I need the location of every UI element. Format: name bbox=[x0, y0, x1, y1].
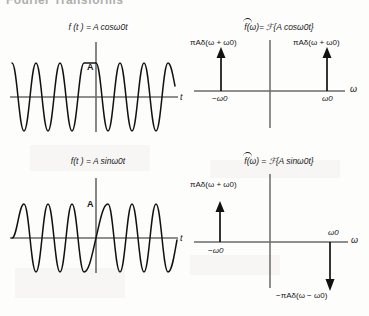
sine-time-plot bbox=[8, 170, 188, 274]
hat-accent-icon bbox=[243, 18, 253, 23]
cosine-time-plot bbox=[8, 36, 188, 134]
sine-freq-title: f(ω) = ℱ{A sinω0t} bbox=[190, 156, 368, 166]
sine-freq-plot bbox=[190, 170, 368, 300]
cosine-freq-title-rest: (ω)= ℱ{A cosω0t} bbox=[247, 22, 314, 32]
cosine-freq-plot bbox=[190, 36, 368, 134]
sine-freq-title-prefix: f bbox=[244, 156, 246, 166]
page-title: Fourier Transforms bbox=[6, 0, 123, 7]
panel-cosine-time-domain: f (t ) = A cosω0t A t bbox=[8, 22, 188, 134]
panel-sine-time-domain: f(t ) = A sinω0t A t bbox=[8, 156, 188, 268]
cosine-freq-title: f(ω)= ℱ{A cosω0t} bbox=[190, 22, 368, 32]
f-hat-symbol-2: f bbox=[244, 156, 246, 166]
cosine-time-title: f (t ) = A cosω0t bbox=[8, 22, 188, 32]
panel-sine-frequency-domain: f(ω) = ℱ{A sinω0t} πAδ(ω + ω0) −ω0 ω0 ω … bbox=[190, 156, 368, 311]
panel-cosine-frequency-domain: f(ω)= ℱ{A cosω0t} πAδ(ω + ω0) πAδ(ω + ω0… bbox=[190, 22, 368, 134]
cosine-freq-title-prefix: f bbox=[244, 22, 246, 32]
sine-freq-title-rest: (ω) = ℱ{A sinω0t} bbox=[247, 156, 314, 166]
figure-page: Fourier Transforms f (t ) = A cosω0t A t… bbox=[0, 0, 369, 316]
f-hat-symbol: f bbox=[244, 22, 246, 32]
sine-time-title: f(t ) = A sinω0t bbox=[8, 156, 188, 166]
hat-accent-icon-2 bbox=[243, 152, 253, 157]
